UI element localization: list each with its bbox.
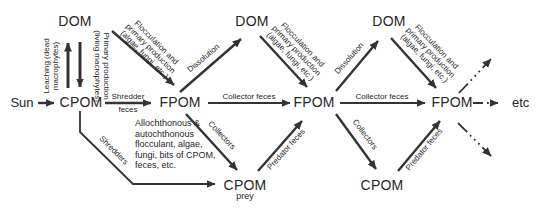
svg-text:(living macrophytes): (living macrophytes) (93, 30, 102, 102)
edge-label-flocculation-3: Flocculation and primary production (alg… (398, 20, 463, 86)
node-cpom-3: CPOM (361, 177, 404, 193)
node-dom-2: DOM (235, 13, 268, 29)
svg-text:Primary production: Primary production (102, 32, 111, 99)
edge-label-collector-feces-1: Collector feces (223, 92, 276, 101)
svg-text:macrophytes): macrophytes) (51, 41, 60, 90)
diagram-canvas: Sun CPOM DOM FPOM DOM FPOM CPOM prey DOM… (0, 0, 541, 208)
arrow-fpom3-continuation-up (459, 59, 491, 93)
edge-label-shredder-feces-top: Shredder (112, 92, 145, 101)
svg-text:Leaching (dead: Leaching (dead (42, 38, 51, 93)
node-dom-3: DOM (372, 13, 405, 29)
edge-label-predator-feces-2: Predator feces (404, 127, 444, 173)
edge-label-primary-production: Primary production (living macrophytes) (93, 30, 111, 102)
svg-text:flocculant, algae,: flocculant, algae, (135, 139, 203, 149)
arrow-fpom3-continuation-down (458, 123, 491, 156)
edge-label-collector-feces-2: Collector feces (356, 92, 409, 101)
node-fpom-2: FPOM (293, 94, 334, 110)
node-fpom-1: FPOM (159, 94, 200, 110)
edge-label-leaching: Leaching (dead macrophytes) (42, 38, 60, 93)
edge-label-shredder-feces-bottom: feces (118, 105, 137, 114)
node-sun: Sun (10, 95, 33, 110)
edge-label-predator-feces-1: Predator feces (265, 127, 307, 172)
svg-text:autochthonous: autochthonous (135, 129, 195, 139)
svg-text:feces, etc.: feces, etc. (135, 160, 176, 170)
organic-matter-flow-figure: Sun CPOM DOM FPOM DOM FPOM CPOM prey DOM… (0, 0, 541, 208)
edge-label-dissolution-2: Dissolution (333, 41, 366, 76)
node-etc: etc (512, 95, 530, 110)
arrow-cpom3-to-fpom3-predator-feces (398, 121, 440, 171)
fpom-composition-note: Allochthonous & autochthonous flocculant… (135, 118, 216, 170)
edge-label-collectors-2: Collectors (351, 118, 380, 152)
node-dom-1: DOM (58, 13, 91, 29)
svg-text:Allochthonous &: Allochthonous & (135, 118, 200, 128)
arrow-cpom-prey-to-fpom2-predator-feces (258, 121, 302, 171)
edge-label-collectors-1: Collectors (206, 119, 237, 151)
node-cpom-prey-subscript: prey (236, 191, 254, 201)
node-fpom-3: FPOM (431, 94, 472, 110)
svg-text:fungi, bits of CPOM,: fungi, bits of CPOM, (135, 150, 216, 160)
edge-label-flocculation-1: Flocculation and primary production (alg… (118, 16, 183, 81)
edge-label-shredders: Shredders (98, 134, 130, 166)
edge-label-dissolution-1: Dissolution (186, 42, 222, 74)
